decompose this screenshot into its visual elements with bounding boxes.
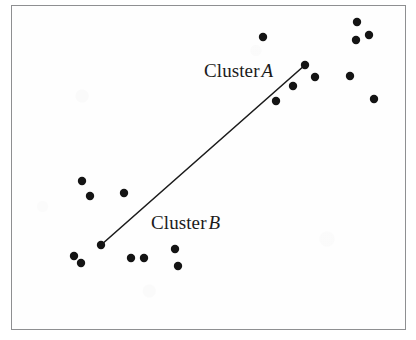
cluster-a-label: ClusterA <box>204 61 273 80</box>
plot-frame <box>11 5 406 330</box>
cluster-b-letter: B <box>207 212 221 233</box>
cluster-a-prefix: Cluster <box>204 60 260 81</box>
cluster-b-prefix: Cluster <box>151 212 207 233</box>
cluster-b-label: ClusterB <box>151 213 220 232</box>
figure-root: ClusterA ClusterB <box>0 0 416 340</box>
cluster-a-letter: A <box>260 60 274 81</box>
